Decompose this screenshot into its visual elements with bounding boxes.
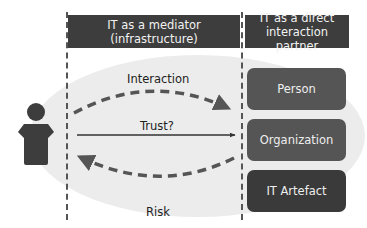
entity-it-artefact-label: IT Artefact	[266, 184, 326, 198]
entity-organization: Organization	[247, 119, 346, 161]
entity-person-label: Person	[277, 82, 316, 96]
interaction-arrow	[74, 91, 228, 113]
entity-person: Person	[247, 68, 346, 110]
risk-arrow	[80, 157, 234, 176]
person-icon	[18, 103, 54, 165]
trust-label: Trust?	[140, 119, 174, 133]
risk-label: Risk	[146, 205, 170, 219]
entity-organization-label: Organization	[260, 133, 334, 147]
entity-it-artefact: IT Artefact	[247, 170, 346, 212]
interaction-label: Interaction	[127, 72, 189, 86]
